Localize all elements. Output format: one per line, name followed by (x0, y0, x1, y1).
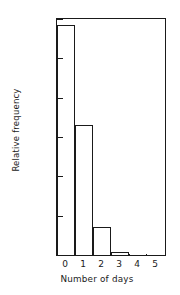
x-tick-label-4: 4 (127, 259, 147, 269)
bar-2 (93, 227, 111, 255)
x-tick-label-2: 2 (91, 259, 111, 269)
plot-area (56, 18, 166, 256)
bar-3 (111, 252, 129, 255)
histogram-figure: Relative frequency 0.60 0.50 0.40 0.30 0… (0, 0, 180, 295)
x-tick-label-5: 5 (145, 259, 165, 269)
x-axis-title: Number of days (0, 274, 180, 284)
x-tick-label-3: 3 (109, 259, 129, 269)
bar-5 (147, 255, 165, 256)
y-tick-060 (57, 19, 63, 20)
x-tick-label-0: 0 (55, 259, 75, 269)
bar-0 (57, 25, 75, 255)
bar-1 (75, 125, 93, 255)
bar-4 (129, 254, 147, 255)
x-tick-label-1: 1 (73, 259, 93, 269)
y-axis-title: Relative frequency (11, 65, 21, 195)
